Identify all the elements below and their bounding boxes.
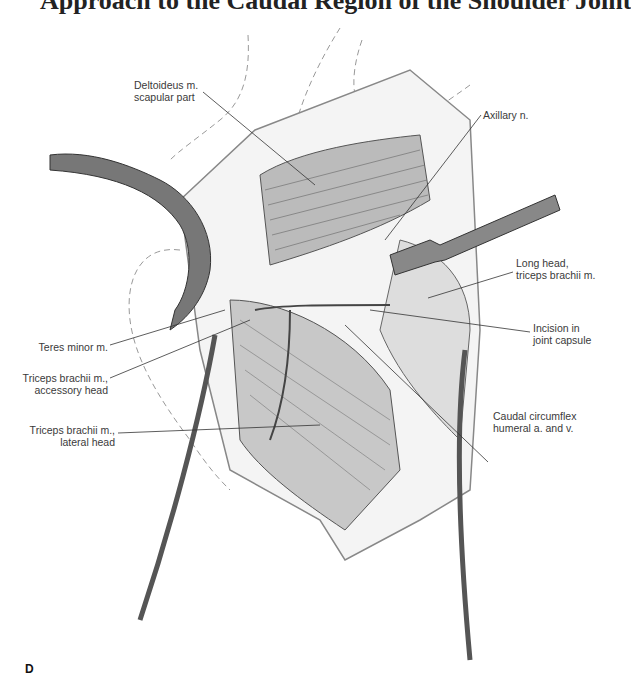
label-deltoideus: Deltoideus m.scapular part (134, 79, 198, 103)
label-caudal-circumflex: Caudal circumflexhumeral a. and v. (493, 410, 576, 434)
left-retractor-handle (140, 335, 215, 620)
label-triceps-accessory: Triceps brachii m.,accessory head (10, 372, 108, 396)
label-incision: Incision injoint capsule (533, 322, 591, 346)
label-triceps-lateral: Triceps brachii m.,lateral head (15, 424, 115, 448)
label-axillary-nerve: Axillary n. (483, 109, 529, 121)
panel-letter: D (25, 662, 34, 676)
label-long-head: Long head,triceps brachii m. (516, 257, 595, 281)
label-teres-minor: Teres minor m. (20, 341, 108, 353)
left-retractor (50, 154, 211, 330)
